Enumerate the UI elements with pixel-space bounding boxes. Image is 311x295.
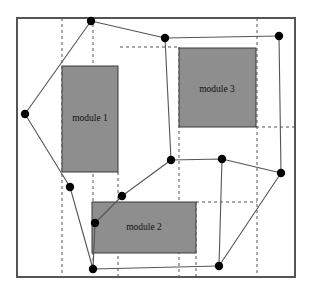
vertex-marker-p6: [91, 219, 99, 227]
module-placement-figure: module 1module 2module 3: [0, 0, 311, 295]
vertex-marker-p2: [275, 32, 283, 40]
vertex-marker-p3: [277, 169, 285, 177]
vertex-marker-p5: [89, 265, 97, 273]
vertex-marker-p0: [87, 17, 95, 25]
vertex-marker-p1: [161, 34, 169, 42]
vertex-marker-p9: [167, 156, 175, 164]
vertex-marker-p7: [66, 183, 74, 191]
module-2-label: module 2: [126, 222, 162, 232]
module-3-label: module 3: [199, 84, 235, 94]
vertex-marker-p4: [215, 262, 223, 270]
diagram-root: module 1module 2module 3: [0, 0, 311, 295]
vertex-marker-p11: [118, 192, 126, 200]
module-1-label: module 1: [72, 113, 108, 123]
vertex-marker-p8: [21, 110, 29, 118]
vertex-marker-p10: [218, 155, 226, 163]
